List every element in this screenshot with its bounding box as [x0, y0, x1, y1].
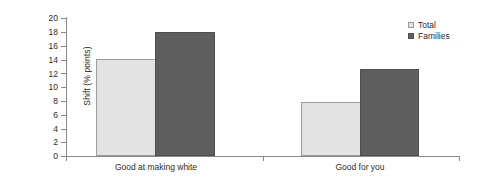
y-tick-label-14: 14 — [32, 56, 58, 65]
bar-total-good-at-making-white — [96, 59, 156, 156]
x-category-label-0: Good at making white — [96, 162, 216, 172]
legend-swatch-families-icon — [408, 33, 414, 39]
x-tick-mark-middle — [263, 156, 264, 161]
plot-area — [66, 18, 460, 156]
y-tick-label-0: 0 — [32, 152, 58, 161]
y-tick-label-18: 18 — [32, 28, 58, 37]
bar-families-good-for-you — [360, 69, 419, 156]
x-category-label-1: Good for you — [300, 162, 420, 172]
legend-label-families: Families — [418, 31, 450, 41]
y-tick-label-10: 10 — [32, 83, 58, 92]
y-tick-label-4: 4 — [32, 125, 58, 134]
x-tick-mark-start — [66, 156, 67, 161]
legend-swatch-total-icon — [408, 22, 414, 28]
y-tick-label-20: 20 — [32, 14, 58, 23]
y-tick-label-16: 16 — [32, 42, 58, 51]
y-tick-label-8: 8 — [32, 97, 58, 106]
x-tick-mark-end — [459, 156, 460, 161]
legend-item-families: Families — [408, 31, 450, 41]
bar-chart-figure: Shift (% points) 20 18 16 14 12 10 8 6 4… — [0, 0, 480, 188]
legend-item-total: Total — [408, 20, 450, 30]
y-axis-tick-labels: 20 18 16 14 12 10 8 6 4 2 0 — [30, 0, 58, 188]
y-tick-label-6: 6 — [32, 111, 58, 120]
bar-total-good-for-you — [301, 102, 361, 156]
y-tick-label-2: 2 — [32, 138, 58, 147]
bar-families-good-at-making-white — [155, 32, 215, 156]
y-tick-label-12: 12 — [32, 70, 58, 79]
legend-label-total: Total — [418, 20, 436, 30]
chart-legend: Total Families — [408, 20, 450, 42]
